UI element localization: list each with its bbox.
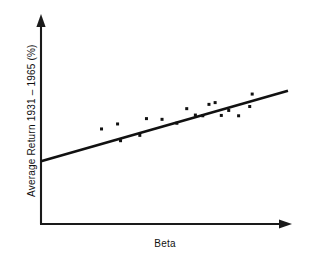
- data-point: [138, 134, 141, 137]
- data-point: [100, 127, 103, 130]
- data-point: [248, 105, 251, 108]
- trend-line-group: [41, 91, 288, 161]
- plot-canvas: [0, 0, 316, 265]
- data-point: [175, 122, 178, 125]
- axes-group: [36, 14, 292, 229]
- data-point: [251, 93, 254, 96]
- data-point: [207, 103, 210, 106]
- data-point: [227, 109, 230, 112]
- data-point: [220, 114, 223, 117]
- data-point: [185, 107, 188, 110]
- data-point: [119, 139, 122, 142]
- data-point: [214, 101, 217, 104]
- data-point: [145, 117, 148, 120]
- x-axis-arrowhead: [279, 219, 292, 228]
- data-point: [237, 114, 240, 117]
- data-point: [194, 114, 197, 117]
- scatter-plot-figure: Average Return 1931 – 1965 (%) Beta: [0, 0, 316, 265]
- x-axis-title: Beta: [40, 238, 290, 249]
- data-point: [116, 122, 119, 125]
- data-point: [161, 118, 164, 121]
- y-axis-title: Average Return 1931 – 1965 (%): [25, 0, 39, 197]
- data-points-group: [100, 93, 254, 143]
- trend-line: [41, 91, 288, 161]
- data-point: [201, 114, 204, 117]
